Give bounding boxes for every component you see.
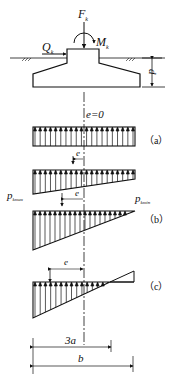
case-a-label: （a） xyxy=(144,135,168,146)
case-c-label: （c） xyxy=(144,281,168,292)
shear-label: Qk xyxy=(42,40,54,55)
e-zero-label: e=0 xyxy=(86,108,104,120)
e-label-c: e xyxy=(64,257,68,267)
foundation-pressure-diagram: d Fk Mk Qk e=0 （a） e pkmax pkmin e （b） e xyxy=(0,0,175,384)
pmax-label: pkmax xyxy=(6,189,24,202)
dim-b-label: b xyxy=(78,352,84,364)
e-label-b2: e xyxy=(75,188,79,198)
force-label: Fk xyxy=(77,7,88,22)
soil-hatch-icon xyxy=(22,58,135,61)
dim-3a-label: 3a xyxy=(64,334,77,346)
pmin-label: pkmin xyxy=(134,192,151,205)
footing-outline xyxy=(33,49,140,87)
case-b-label: （b） xyxy=(144,214,169,225)
pressure-diagram-c xyxy=(33,271,134,318)
e-label-b1: e xyxy=(76,148,80,158)
depth-label: d xyxy=(147,69,159,75)
footing xyxy=(10,49,162,87)
moment-label: Mk xyxy=(95,35,109,50)
